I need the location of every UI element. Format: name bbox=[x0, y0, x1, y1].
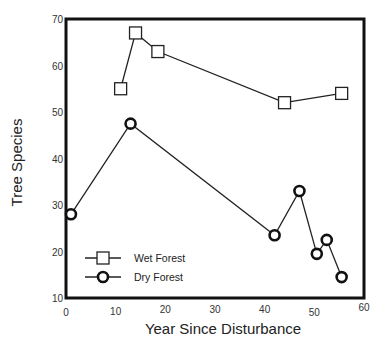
y-tick-label: 20 bbox=[52, 247, 64, 258]
legend-label: Wet Forest bbox=[134, 252, 185, 264]
y-tick-label: 60 bbox=[52, 61, 64, 72]
y-tick-label: 30 bbox=[52, 200, 64, 211]
x-tick-label: 60 bbox=[358, 302, 370, 313]
square-marker bbox=[130, 27, 142, 39]
line-chart: 10203040506070 0102030405060 Wet ForestD… bbox=[0, 0, 379, 349]
x-tick-label: 10 bbox=[110, 306, 122, 317]
legend-square-icon bbox=[97, 252, 109, 264]
circle-marker bbox=[312, 249, 322, 259]
circle-marker bbox=[66, 209, 76, 219]
legend-label: Dry Forest bbox=[134, 271, 183, 283]
series-layer bbox=[66, 27, 348, 282]
y-tick-label: 50 bbox=[52, 107, 64, 118]
x-tick-label: 0 bbox=[63, 307, 69, 318]
circle-marker bbox=[337, 272, 347, 282]
circle-marker bbox=[270, 230, 280, 240]
x-tick-label: 40 bbox=[259, 304, 271, 315]
wet-forest-series bbox=[115, 27, 348, 109]
x-axis-title: Year Since Disturbance bbox=[145, 320, 301, 337]
series-line bbox=[71, 124, 342, 277]
y-tick-label: 10 bbox=[52, 293, 64, 304]
square-marker bbox=[115, 83, 127, 95]
x-tick-label: 30 bbox=[209, 304, 221, 315]
legend-item-dry-forest: Dry Forest bbox=[85, 271, 183, 283]
circle-marker bbox=[322, 235, 332, 245]
x-tick-label: 50 bbox=[309, 307, 321, 318]
square-marker bbox=[152, 46, 164, 58]
square-marker bbox=[336, 87, 348, 99]
legend: Wet ForestDry Forest bbox=[85, 252, 185, 283]
legend-circle-icon bbox=[98, 272, 108, 282]
square-marker bbox=[279, 97, 291, 109]
y-tick-label: 40 bbox=[52, 154, 64, 165]
circle-marker bbox=[126, 119, 136, 129]
y-tick-label: 70 bbox=[52, 14, 64, 25]
x-tick-label: 20 bbox=[160, 304, 172, 315]
y-axis-ticks: 10203040506070 bbox=[52, 14, 64, 304]
circle-marker bbox=[294, 186, 304, 196]
legend-item-wet-forest: Wet Forest bbox=[85, 252, 185, 264]
y-axis-title: Tree Species bbox=[8, 119, 25, 207]
series-line bbox=[121, 33, 342, 103]
x-axis-ticks: 0102030405060 bbox=[63, 302, 370, 318]
